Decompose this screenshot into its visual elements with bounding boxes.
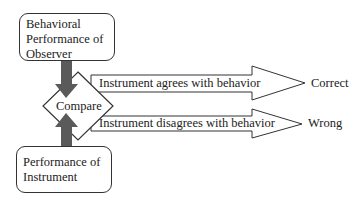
wrong-outcome-label: Wrong (308, 116, 342, 131)
observer-line-2: Performance of (26, 32, 108, 47)
correct-outcome-label: Correct (311, 76, 348, 91)
instrument-line-2: Instrument (23, 170, 105, 185)
observer-line-1: Behavioral (26, 17, 108, 32)
observer-line-3: Observer (26, 47, 108, 62)
instrument-box: Performance of Instrument (16, 146, 112, 193)
observer-box: Behavioral Performance of Observer (19, 13, 115, 61)
disagree-label: Instrument disagrees with behavior (99, 116, 275, 131)
agree-label: Instrument agrees with behavior (99, 76, 260, 91)
compare-label: Compare (56, 99, 102, 114)
instrument-line-1: Performance of (23, 155, 105, 170)
